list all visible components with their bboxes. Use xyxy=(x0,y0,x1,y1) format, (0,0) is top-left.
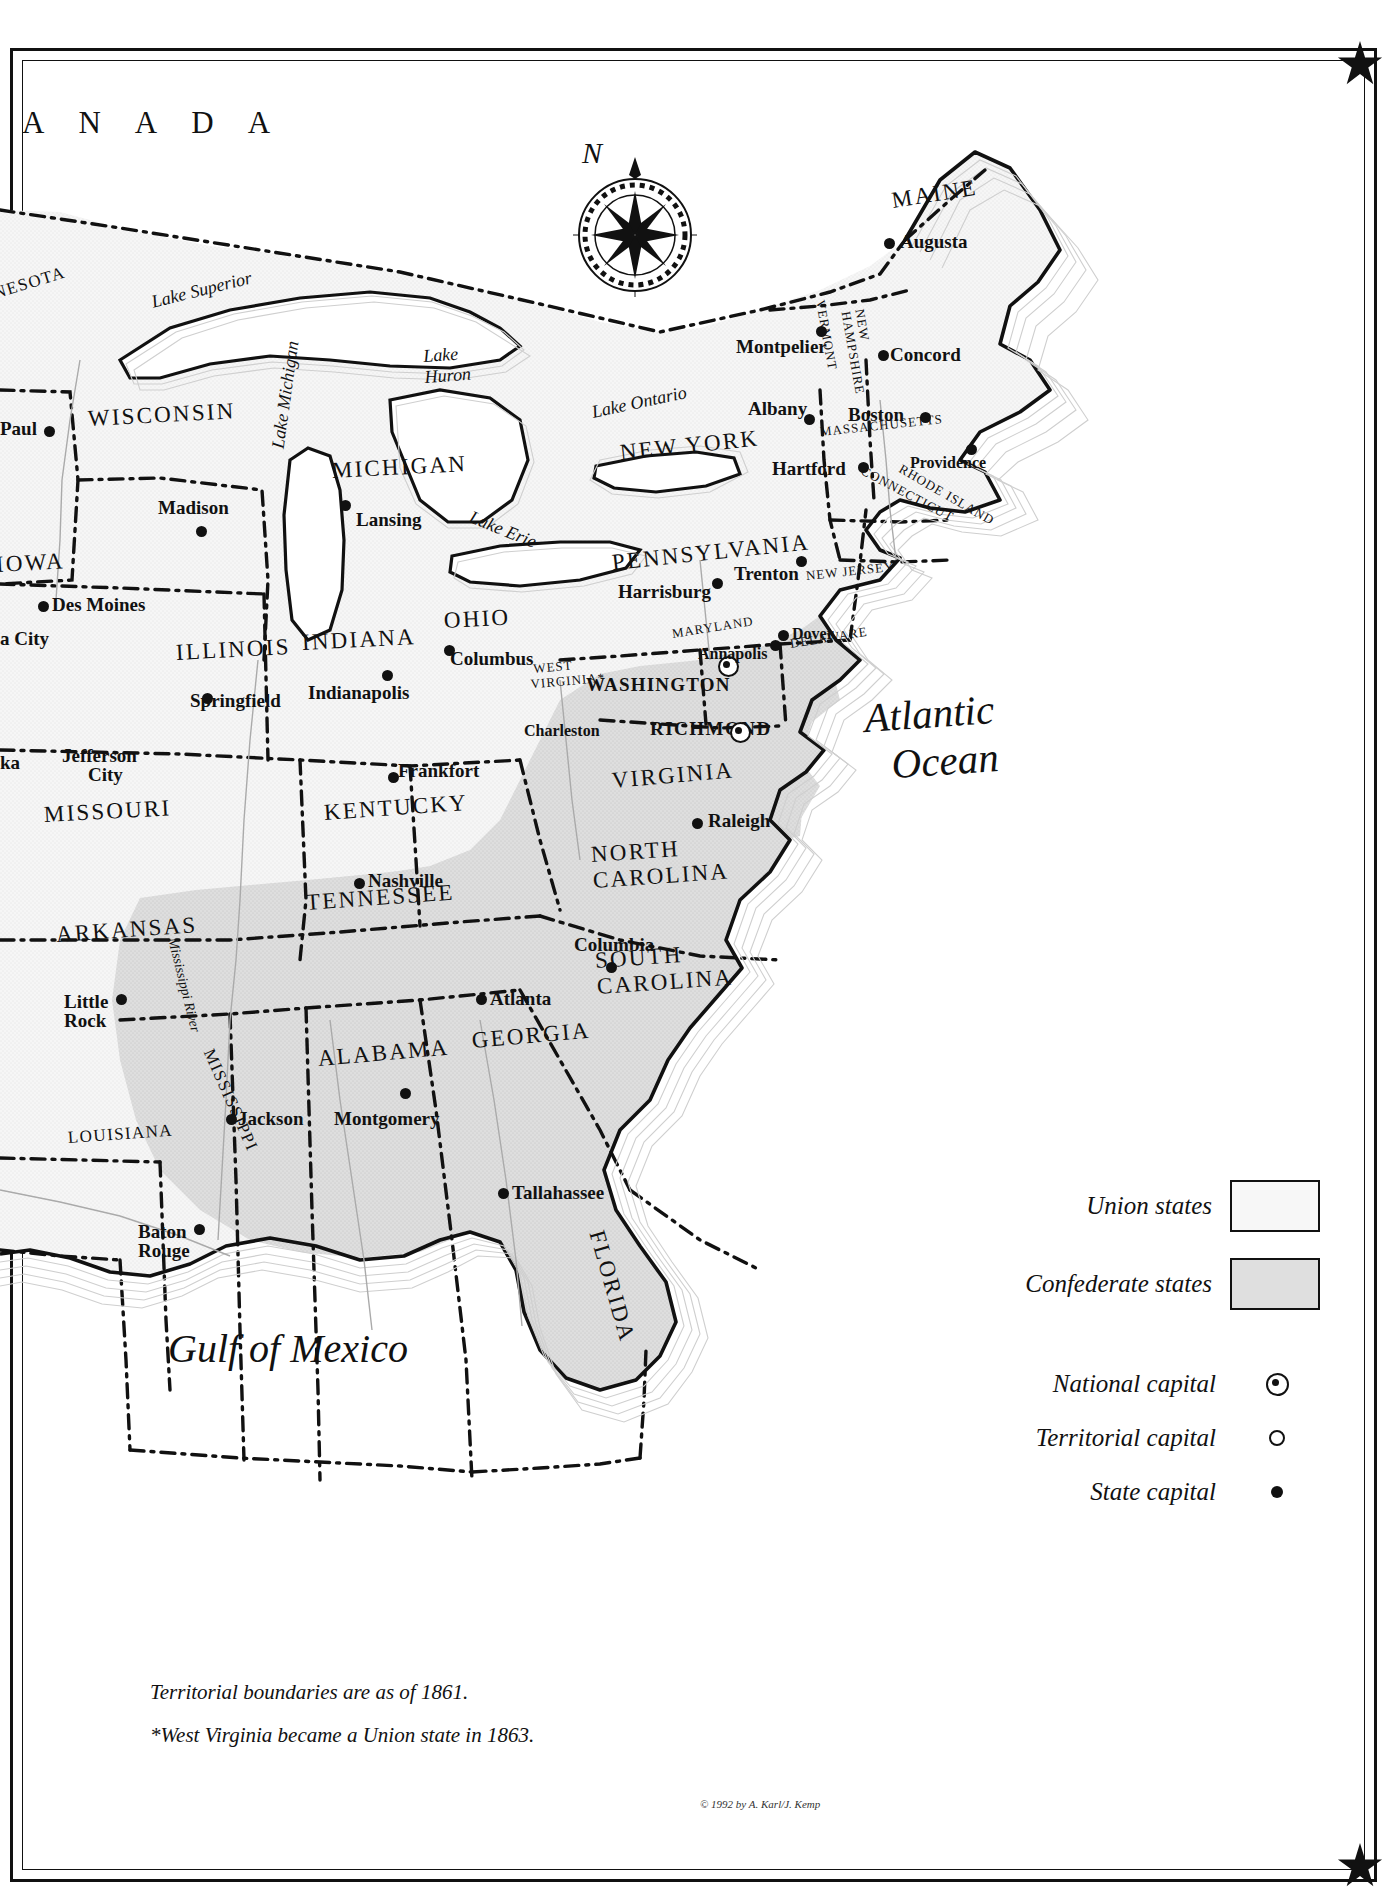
state-capital-icon xyxy=(1271,1486,1283,1498)
legend-label-confederate: Confederate states xyxy=(1025,1270,1212,1298)
territorial-capital-icon xyxy=(1269,1430,1285,1446)
dot-augusta xyxy=(884,238,895,249)
corner-star-icon xyxy=(1337,1842,1383,1888)
legend-row-union: Union states xyxy=(930,1180,1320,1232)
legend-label-national-capital: National capital xyxy=(1053,1370,1216,1398)
legend-row-territorial-capital: Territorial capital xyxy=(930,1424,1320,1452)
dot-trenton xyxy=(796,556,807,567)
dot-montgomery xyxy=(400,1088,411,1099)
dot-hartford xyxy=(858,462,869,473)
dot-concord xyxy=(878,350,889,361)
dot-baton-rouge xyxy=(194,1224,205,1235)
legend-row-state-capital: State capital xyxy=(930,1478,1320,1506)
dot-raleigh xyxy=(692,818,703,829)
dot-jackson xyxy=(226,1114,237,1125)
map-legend: Union states Confederate states National… xyxy=(930,1180,1320,1532)
map-page: .land{fill:url(#stipple);} .conf{fill:ur… xyxy=(0,0,1387,1900)
dot-boston xyxy=(920,412,931,423)
dot-dover xyxy=(778,630,789,641)
compass-rose: N xyxy=(560,140,710,320)
dot-springfield xyxy=(202,693,213,704)
dot-frankfort xyxy=(388,772,399,783)
dot-montpelier xyxy=(816,326,827,337)
dot-richmond-national-capital xyxy=(730,722,751,743)
legend-label-territorial-capital: Territorial capital xyxy=(1036,1424,1216,1452)
dot-albany xyxy=(804,414,815,425)
legend-row-confederate: Confederate states xyxy=(930,1258,1320,1310)
dot-providence xyxy=(966,444,977,455)
dot-annapolis xyxy=(770,640,781,651)
dot-nashville xyxy=(354,878,365,889)
note-territorial-boundaries: Territorial boundaries are as of 1861. xyxy=(150,1680,850,1705)
dot-washington-national-capital xyxy=(718,656,739,677)
corner-star-icon xyxy=(1337,40,1383,86)
dot-lansing xyxy=(340,500,351,511)
dot-indianapolis xyxy=(382,670,393,681)
dot-harrisburg xyxy=(712,578,723,589)
dot-st-paul xyxy=(44,426,55,437)
map-notes: Territorial boundaries are as of 1861. *… xyxy=(150,1680,850,1766)
legend-label-union: Union states xyxy=(1086,1192,1212,1220)
dot-des-moines xyxy=(38,601,49,612)
dot-little-rock xyxy=(116,994,127,1005)
dot-atlanta xyxy=(476,994,487,1005)
legend-swatch-union xyxy=(1230,1180,1320,1232)
legend-row-national-capital: National capital xyxy=(930,1370,1320,1398)
dot-columbia xyxy=(606,962,617,973)
legend-swatch-confederate xyxy=(1230,1258,1320,1310)
dot-columbus xyxy=(444,645,455,656)
dot-madison xyxy=(196,526,207,537)
national-capital-icon xyxy=(1266,1373,1289,1396)
dot-tallahassee xyxy=(498,1188,509,1199)
compass-north-letter: N xyxy=(582,136,602,170)
legend-label-state-capital: State capital xyxy=(1090,1478,1216,1506)
note-west-virginia: *West Virginia became a Union state in 1… xyxy=(150,1723,850,1748)
copyright-notice: © 1992 by A. Karl/J. Kemp xyxy=(700,1798,820,1810)
